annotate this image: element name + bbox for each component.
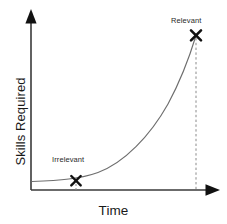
x-axis-arrowhead	[206, 184, 221, 196]
chart-plot-area	[0, 0, 227, 224]
relevant-point-label: Relevant	[171, 16, 201, 25]
chart-figure: Irrelevant Relevant Skills Required Time	[0, 0, 227, 224]
y-axis-title: Skills Required	[13, 68, 28, 176]
irrelevant-point-label: Irrelevant	[52, 155, 84, 164]
irrelevant-marker-x-icon	[71, 176, 80, 185]
y-axis-arrowhead	[25, 9, 36, 24]
x-axis-title: Time	[0, 203, 227, 218]
